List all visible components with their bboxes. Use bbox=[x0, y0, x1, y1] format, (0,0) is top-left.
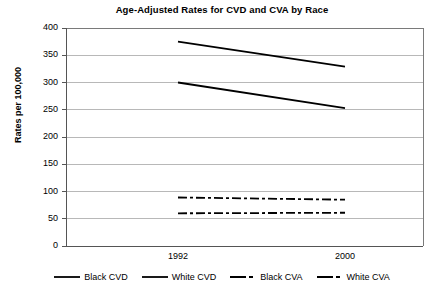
legend-label: White CVD bbox=[172, 272, 217, 282]
legend-swatch bbox=[142, 273, 168, 281]
legend-label: Black CVD bbox=[84, 272, 128, 282]
series-line bbox=[178, 42, 345, 67]
legend-swatch bbox=[317, 273, 343, 281]
legend-label: Black CVA bbox=[260, 272, 302, 282]
series-line bbox=[178, 213, 345, 214]
legend-item: White CVA bbox=[317, 272, 390, 282]
legend-swatch bbox=[230, 273, 256, 281]
chart-container: Age-Adjusted Rates for CVD and CVA by Ra… bbox=[0, 0, 444, 292]
chart-legend: Black CVDWhite CVDBlack CVAWhite CVA bbox=[0, 272, 444, 282]
legend-item: Black CVD bbox=[54, 272, 128, 282]
legend-label: White CVA bbox=[347, 272, 390, 282]
legend-item: Black CVA bbox=[230, 272, 302, 282]
series-line bbox=[178, 197, 345, 199]
legend-item: White CVD bbox=[142, 272, 217, 282]
plot-area bbox=[0, 0, 444, 292]
series-line bbox=[178, 83, 345, 109]
legend-swatch bbox=[54, 273, 80, 281]
